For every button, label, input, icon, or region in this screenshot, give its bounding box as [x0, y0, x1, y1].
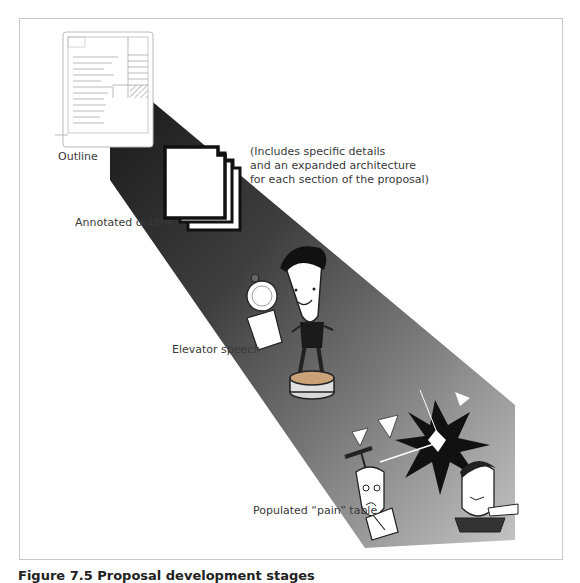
note-line-3: for each section of the proposal): [250, 173, 429, 187]
label-outline: Outline: [58, 150, 98, 164]
figure-caption: Figure 7.5 Proposal development stages: [18, 568, 315, 583]
outline-document-icon: [55, 32, 153, 147]
note-line-2: and an expanded architecture: [250, 159, 429, 173]
annotated-outline-note: (Includes specific details and an expand…: [250, 145, 429, 187]
label-pain-table: Populated “pain” table: [253, 504, 377, 518]
label-elevator-speech: Elevator speech: [172, 343, 260, 357]
label-annotated-outline: Annotated outline: [75, 216, 174, 230]
annotated-outline-pages-icon: [165, 147, 240, 230]
note-line-1: (Includes specific details: [250, 145, 429, 159]
